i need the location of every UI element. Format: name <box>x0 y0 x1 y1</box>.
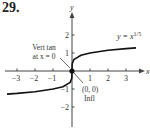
x-axis-arrow-icon <box>139 69 145 74</box>
function-graph: x y −3 −2 −1 1 2 3 2 1 −1 −2 y = x1/5 <box>0 0 150 130</box>
x-tick-label: 3 <box>124 74 128 83</box>
function-label-exponent: 1/5 <box>134 31 142 37</box>
annotation-vert-tan-line1: Vert tan <box>32 43 56 52</box>
annotation-infl-line2: Infl <box>84 94 95 103</box>
function-label: y = x1/5 <box>116 31 141 41</box>
inflection-point-marker <box>69 68 74 73</box>
y-tick-label: 2 <box>65 31 69 40</box>
x-tick-label: 1 <box>88 74 92 83</box>
annotation-vert-tan-pointer <box>60 58 70 68</box>
x-tick-label: −1 <box>48 74 57 83</box>
y-axis-arrow-icon <box>70 12 75 18</box>
y-tick-label: 1 <box>65 49 69 58</box>
x-tick-label: 2 <box>106 74 110 83</box>
x-tick-label: −2 <box>30 74 39 83</box>
x-tick-label: −3 <box>12 74 21 83</box>
annotation-infl-line1: (0, 0) <box>82 85 99 94</box>
x-axis-label: x <box>145 67 150 76</box>
function-label-base: y = x <box>116 32 134 41</box>
annotation-vert-tan-line2: at x = 0 <box>33 52 56 61</box>
y-axis-label: y <box>69 3 74 12</box>
annotation-infl-pointer <box>74 73 83 83</box>
y-tick-label: −2 <box>60 103 69 112</box>
